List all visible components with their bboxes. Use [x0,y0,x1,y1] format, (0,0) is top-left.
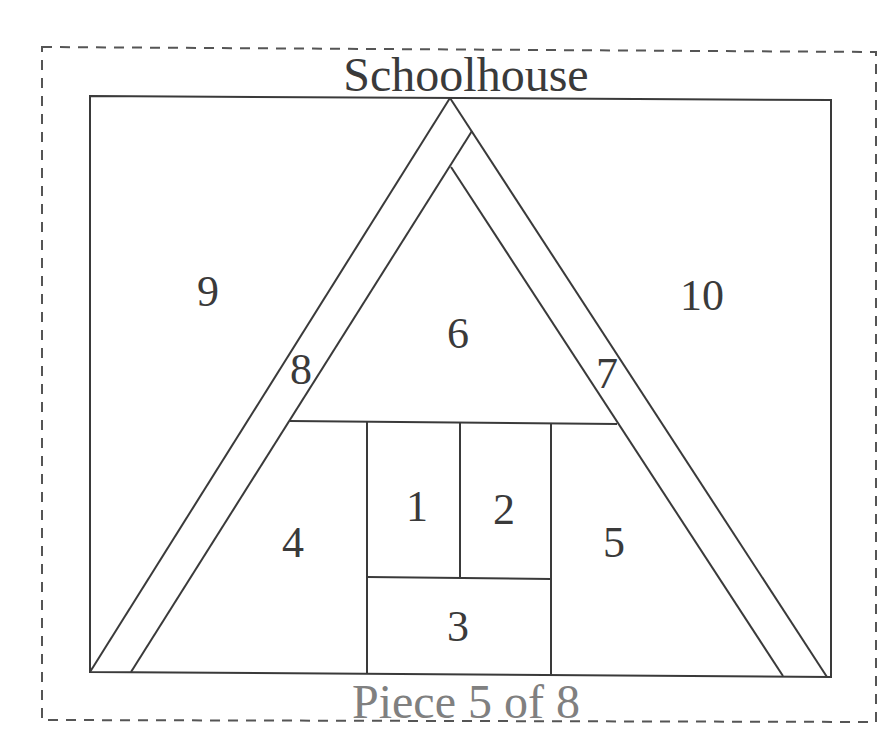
piece-label-10: 10 [680,274,724,318]
piece-label-6: 6 [447,312,469,356]
piece-counter: Piece 5 of 8 [18,674,896,730]
diagram-title: Schoolhouse [18,47,896,103]
roof-right-outer-line [450,98,827,677]
roof-left-outer-line [90,98,450,672]
piece-label-3: 3 [447,605,469,649]
piece8-inner-line [131,131,472,672]
piece-label-9: 9 [197,270,219,314]
piece-label-2: 2 [493,488,515,532]
piece-label-7: 7 [596,352,618,396]
piece7-inner-line [451,167,783,676]
divider-12-3 [367,577,551,579]
piece6-base-line [290,421,617,424]
piece-label-5: 5 [603,521,625,565]
piece-label-1: 1 [406,485,428,529]
piece-label-8: 8 [290,348,312,392]
piece-label-4: 4 [282,521,304,565]
